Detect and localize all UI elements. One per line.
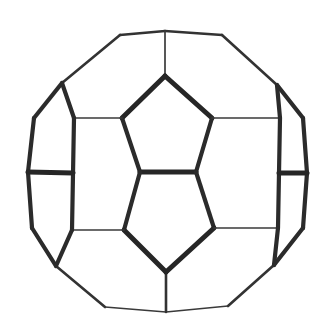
edge-right-face-upper-rib bbox=[277, 85, 280, 118]
edge-lowpent-left-side bbox=[124, 172, 140, 230]
edge-outline-top-right bbox=[165, 31, 222, 35]
figure-canvas: Truncated icosahedron (soccer-ball / ful… bbox=[0, 0, 328, 333]
edge-outline-left-mid-up bbox=[28, 118, 34, 172]
edge-lowpent-bottom-left bbox=[124, 230, 166, 272]
edge-left-face-lower-rib bbox=[56, 230, 72, 266]
edge-outline-bottom-left bbox=[56, 266, 105, 307]
edge-layer bbox=[28, 31, 307, 312]
edge-outline-left-mid-dn bbox=[28, 172, 32, 228]
edge-pent-right-side bbox=[196, 118, 212, 172]
edge-lowpent-bottom-right bbox=[166, 228, 214, 272]
edge-outline-top-left bbox=[120, 31, 165, 35]
edge-outline-upper-right bbox=[222, 35, 277, 85]
edge-outline-left-lower bbox=[32, 228, 56, 266]
edge-outline-bottom-right bbox=[228, 265, 274, 306]
edge-pent-left-side bbox=[122, 118, 140, 172]
edge-pent-upper-left-edge bbox=[122, 76, 165, 118]
edge-outline-left-upper bbox=[34, 83, 62, 118]
edge-outline-right-mid-up bbox=[303, 118, 307, 173]
edge-outline-bottom-left-inner bbox=[105, 307, 166, 312]
edge-outline-bottom-right-inner bbox=[166, 306, 228, 312]
edge-left-horizontal-tick bbox=[28, 172, 73, 173]
truncated-icosahedron-diagram: Truncated icosahedron (soccer-ball / ful… bbox=[0, 0, 328, 333]
edge-pent-upper-right-edge bbox=[165, 76, 212, 118]
edge-lowpent-right-side bbox=[196, 172, 214, 228]
edge-left-face-upper-rib bbox=[62, 83, 74, 118]
edge-outline-right-mid-dn bbox=[303, 173, 307, 228]
edge-outline-upper-left bbox=[62, 35, 120, 83]
